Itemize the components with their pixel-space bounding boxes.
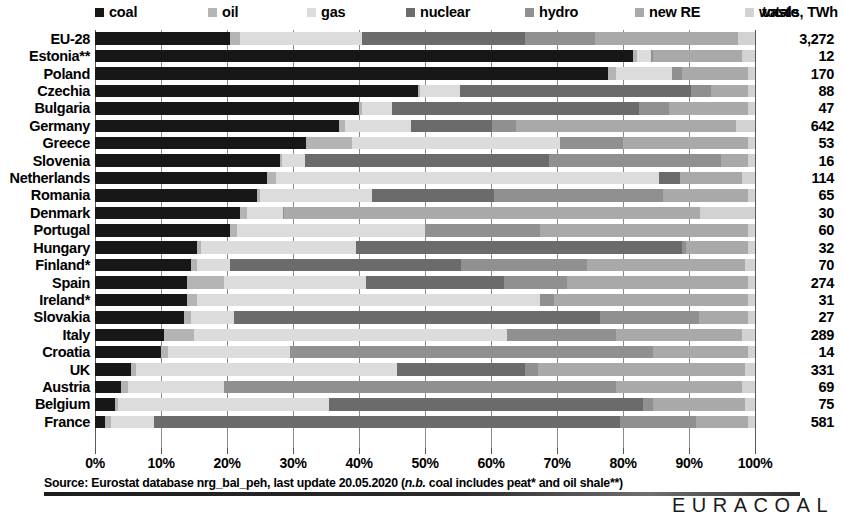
bar-row	[95, 50, 755, 63]
legend-label: oil	[222, 4, 238, 20]
tick-30	[293, 448, 294, 454]
chart-plot-area	[95, 30, 755, 448]
bar-segment-hydro	[507, 329, 616, 342]
total-value: 69	[818, 380, 834, 395]
bar-segment-coal	[95, 85, 418, 98]
legend-item-oil: oil	[208, 4, 238, 20]
bar-segment-oil	[267, 172, 277, 185]
total-value: 47	[818, 101, 834, 116]
bar-segment-waste	[748, 311, 755, 324]
bar-row	[95, 276, 755, 289]
category-label: Poland	[0, 67, 90, 82]
bar-row	[95, 224, 755, 237]
legend-label: new RE	[649, 4, 700, 20]
legend-item-coal: coal	[95, 4, 137, 20]
x-tick-label: 20%	[213, 455, 240, 471]
bar-segment-coal	[95, 259, 191, 272]
bar-segment-waste	[748, 416, 755, 429]
bar-segment-nuclear	[230, 259, 461, 272]
bar-row	[95, 102, 755, 115]
bar-segment-waste	[748, 346, 755, 359]
source-note: Source: Eurostat database nrg_bal_peh, l…	[44, 476, 623, 490]
bar-segment-nuclear	[372, 189, 494, 202]
bar-segment-waste	[745, 259, 755, 272]
bar-segment-new-RE	[554, 294, 749, 307]
bar-segment-coal	[95, 32, 230, 45]
bar-segment-waste	[742, 50, 755, 63]
bar-segment-hydro	[494, 189, 662, 202]
category-label: Finland*	[0, 258, 90, 273]
bar-segment-gas	[194, 329, 508, 342]
total-value: 114	[812, 171, 835, 186]
bar-segment-waste	[748, 154, 755, 167]
bar-segment-gas	[637, 50, 652, 63]
bar-segment-waste	[748, 137, 755, 150]
bar-segment-new-RE	[616, 381, 741, 394]
bar-segment-gas	[201, 241, 356, 254]
bar-segment-coal	[95, 137, 306, 150]
bar-segment-nuclear	[356, 241, 683, 254]
legend-swatch-icon	[95, 8, 104, 17]
bar-segment-nuclear	[362, 32, 525, 45]
bar-segment-hydro	[639, 102, 669, 115]
bar-segment-waste	[738, 32, 755, 45]
total-value: 289	[811, 328, 834, 343]
total-value: 32	[818, 241, 834, 256]
bar-segment-new-RE	[567, 276, 749, 289]
bar-segment-hydro	[224, 381, 617, 394]
bar-segment-oil	[161, 346, 168, 359]
legend-item-nuclear: nuclear	[406, 4, 470, 20]
bar-segment-new-RE	[686, 241, 748, 254]
bar-segment-new-RE	[616, 329, 741, 342]
euracoal-logo: EURACOAL	[672, 494, 834, 514]
category-label: Hungary	[0, 241, 90, 256]
bar-segment-coal	[95, 416, 105, 429]
legend-label: coal	[109, 4, 137, 20]
bar-row	[95, 32, 755, 45]
bar-segment-gas	[247, 207, 283, 220]
bar-segment-gas	[276, 172, 659, 185]
bar-segment-nuclear	[397, 363, 526, 376]
totals-column-header: totals, TWh	[762, 4, 838, 20]
bar-segment-gas	[352, 137, 560, 150]
category-label: Belgium	[0, 397, 90, 412]
bar-segment-coal	[95, 154, 280, 167]
legend-swatch-icon	[208, 8, 217, 17]
bar-segment-gas	[168, 346, 290, 359]
bar-segment-new-RE	[587, 259, 745, 272]
bar-segment-waste	[748, 276, 755, 289]
bar-row	[95, 172, 755, 185]
bar-segment-new-RE	[540, 224, 748, 237]
bar-segment-new-RE	[682, 67, 748, 80]
total-value: 12	[818, 49, 834, 64]
total-value: 31	[818, 293, 834, 308]
total-value: 3,272	[799, 32, 834, 47]
bar-segment-new-RE	[538, 363, 745, 376]
x-tick-label: 0%	[85, 455, 105, 471]
bar-segment-gas	[362, 102, 392, 115]
category-labels: EU-28Estonia**PolandCzechiaBulgariaGerma…	[0, 30, 90, 448]
bar-segment-new-RE	[696, 416, 749, 429]
bar-segment-gas	[136, 363, 397, 376]
category-label: France	[0, 415, 90, 430]
bar-row	[95, 381, 755, 394]
bar-segment-hydro	[425, 224, 541, 237]
bar-segment-oil	[240, 207, 247, 220]
bar-segment-gas	[260, 189, 372, 202]
total-value: 30	[818, 206, 834, 221]
chart-legend: coaloilgasnuclearhydronew REwaste	[95, 4, 755, 24]
bar-segment-coal	[95, 294, 187, 307]
bar-segment-hydro	[504, 276, 567, 289]
tick-0	[95, 448, 96, 454]
bar-segment-waste	[742, 172, 755, 185]
source-nb-italic: n.b.	[405, 476, 426, 490]
bar-segment-nuclear	[154, 416, 619, 429]
category-label: Slovakia	[0, 310, 90, 325]
category-label: Ireland*	[0, 293, 90, 308]
bar-segment-oil	[608, 67, 616, 80]
total-value: 331	[811, 363, 834, 378]
bar-segment-coal	[95, 102, 359, 115]
bar-row	[95, 259, 755, 272]
tick-10	[161, 448, 162, 454]
legend-swatch-icon	[745, 8, 754, 17]
